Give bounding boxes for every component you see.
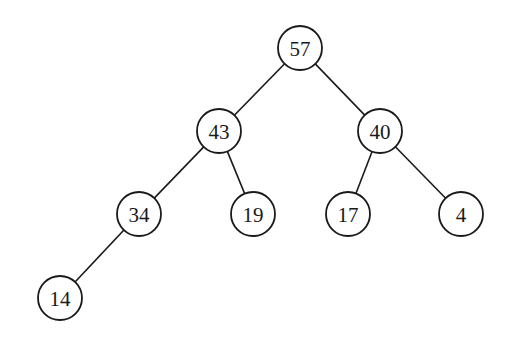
tree-node-40: 40 xyxy=(358,109,402,153)
tree-node-4: 4 xyxy=(439,192,483,236)
edges-group xyxy=(75,64,446,282)
tree-svg: 574340341917414 xyxy=(0,0,517,346)
edge-57-43 xyxy=(234,64,284,116)
edge-57-40 xyxy=(315,64,364,115)
tree-node-14: 14 xyxy=(38,276,82,320)
node-label: 43 xyxy=(209,120,230,144)
tree-node-17: 17 xyxy=(326,192,370,236)
tree-node-19: 19 xyxy=(231,192,275,236)
tree-node-34: 34 xyxy=(117,192,161,236)
edge-43-34 xyxy=(154,147,203,198)
tree-node-43: 43 xyxy=(197,109,241,153)
edge-40-17 xyxy=(356,152,372,194)
nodes-group: 574340341917414 xyxy=(38,26,483,320)
tree-diagram: 574340341917414 xyxy=(0,0,517,346)
node-label: 19 xyxy=(243,203,264,227)
node-label: 14 xyxy=(50,287,72,311)
node-label: 57 xyxy=(290,37,311,61)
node-label: 4 xyxy=(456,203,467,227)
tree-node-57: 57 xyxy=(278,26,322,70)
node-label: 40 xyxy=(370,120,391,144)
edge-40-4 xyxy=(395,147,445,199)
node-label: 34 xyxy=(129,203,151,227)
node-label: 17 xyxy=(338,203,359,227)
edge-43-19 xyxy=(227,151,244,193)
edge-34-14 xyxy=(75,230,124,282)
